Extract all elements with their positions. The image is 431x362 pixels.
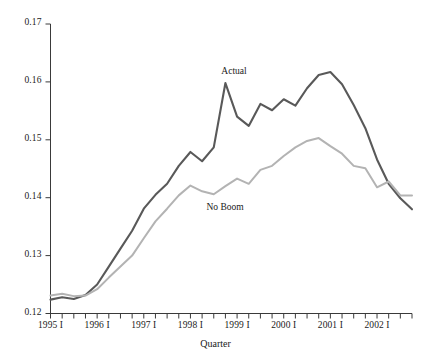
x-tick-label: 2000 I [271,320,296,330]
data-series-group [51,72,413,300]
series-annotation-actual: Actual [221,66,246,76]
line-chart-canvas [0,0,431,362]
y-tick-label: 0.14 [8,191,42,201]
x-tick-label: 1995 I [38,320,63,330]
y-tick-label: 0.12 [8,307,42,317]
x-tick-label: 2001 I [318,320,343,330]
y-tick-marks [46,24,51,314]
y-tick-label: 0.15 [8,133,42,143]
y-tick-label: 0.16 [8,75,42,85]
y-tick-label: 0.13 [8,249,42,259]
x-tick-label: 1996 I [85,320,110,330]
x-tick-label: 1998 I [178,320,203,330]
y-tick-label: 0.17 [8,17,42,27]
x-tick-label: 1997 I [131,320,156,330]
x-tick-label: 2002 I [364,320,389,330]
x-tick-marks [51,314,413,319]
chart-figure: 0.170.160.150.140.130.12 1995 I1996 I199… [0,0,431,362]
series-annotation-no-boom: No Boom [206,202,243,212]
x-axis-title: Quarter [0,338,431,349]
x-tick-label: 1999 I [225,320,250,330]
series-line-actual [51,72,413,300]
